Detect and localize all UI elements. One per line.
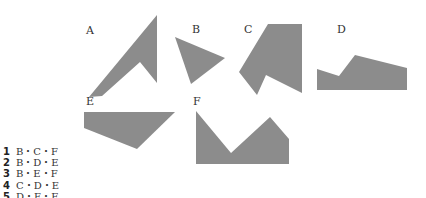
shape-d [317, 55, 407, 90]
shape-a [89, 15, 157, 97]
label-d: D [337, 23, 346, 36]
choice-text: D・E・F [16, 191, 58, 198]
choice-5[interactable]: 5 D・E・F [3, 191, 59, 198]
choice-number: 2 [3, 157, 16, 168]
shape-b [175, 37, 225, 84]
choice-text: B・D・E [16, 157, 59, 168]
label-e: E [86, 95, 94, 108]
shape-f [196, 111, 289, 164]
choice-1[interactable]: 1 B・C・F [3, 146, 59, 157]
label-b: B [192, 23, 200, 36]
label-f: F [193, 95, 201, 108]
answer-choices: 1 B・C・F 2 B・D・E 3 B・E・F 4 C・D・E 5 D・E・F [3, 146, 59, 198]
choice-number: 4 [3, 180, 16, 191]
choice-4[interactable]: 4 C・D・E [3, 180, 59, 191]
label-a: A [85, 24, 95, 37]
label-c: C [244, 23, 252, 36]
choice-number: 3 [3, 168, 16, 179]
choice-2[interactable]: 2 B・D・E [3, 157, 59, 168]
choice-text: C・D・E [16, 180, 59, 191]
shapes-figure: A B C D E F [0, 0, 426, 198]
choice-number: 1 [3, 146, 16, 157]
choice-text: B・E・F [16, 168, 58, 179]
choice-number: 5 [3, 191, 16, 198]
shape-e [84, 112, 175, 149]
choice-3[interactable]: 3 B・E・F [3, 168, 59, 179]
choice-text: B・C・F [16, 146, 58, 157]
